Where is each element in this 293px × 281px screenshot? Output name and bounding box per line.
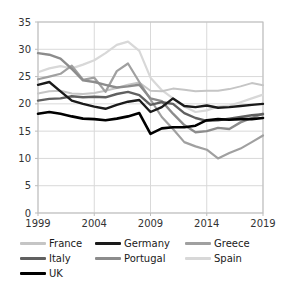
legend-label-uk: UK (49, 266, 63, 281)
legend-item-uk: UK (20, 266, 95, 281)
y-axis-label-20: 20 (18, 98, 31, 109)
legend-item-greece: Greece (185, 236, 286, 251)
x-axis-label-2004: 2004 (82, 218, 107, 229)
y-axis-label-5: 5 (25, 180, 31, 191)
legend-swatch-germany (95, 242, 121, 245)
y-axis-label-0: 0 (25, 208, 31, 219)
legend-item-italy: Italy (20, 251, 95, 266)
legend-swatch-france (20, 242, 46, 245)
legend-label-italy: Italy (49, 251, 71, 266)
y-axis-label-15: 15 (18, 126, 31, 137)
x-axis-label-2014: 2014 (194, 218, 219, 229)
x-axis-label-2019: 2019 (250, 218, 275, 229)
chart-canvas: 0510152025303519992004200920142019 (0, 0, 293, 234)
legend-swatch-greece (185, 242, 211, 245)
x-axis-label-2009: 2009 (138, 218, 163, 229)
legend-item-spain: Spain (185, 251, 286, 266)
line-chart: 0510152025303519992004200920142019 (0, 0, 293, 234)
y-axis-label-25: 25 (18, 71, 31, 82)
legend-item-germany: Germany (95, 236, 185, 251)
y-axis-label-10: 10 (18, 153, 31, 164)
legend-swatch-italy (20, 257, 46, 260)
legend-swatch-uk (20, 272, 46, 275)
legend-label-spain: Spain (214, 251, 242, 266)
legend-label-portugal: Portugal (124, 251, 165, 266)
legend-label-greece: Greece (214, 236, 250, 251)
legend-swatch-portugal (95, 257, 121, 260)
x-axis-label-1999: 1999 (25, 218, 50, 229)
legend-item-portugal: Portugal (95, 251, 185, 266)
legend-label-germany: Germany (124, 236, 170, 251)
y-axis-label-30: 30 (18, 44, 31, 55)
y-axis-label-35: 35 (18, 17, 31, 28)
legend-swatch-spain (185, 257, 211, 260)
chart-legend: FranceGermanyGreeceItalyPortugalSpainUK (20, 236, 286, 281)
legend-item-france: France (20, 236, 95, 251)
legend-label-france: France (49, 236, 82, 251)
